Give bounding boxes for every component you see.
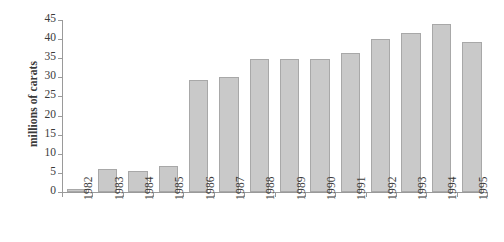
y-tick-label: 20 <box>45 108 57 120</box>
bar-chart: millions of carats 051015202530354045 19… <box>0 0 504 242</box>
x-tick-label: 1993 <box>416 176 428 200</box>
bar <box>280 59 299 192</box>
bar <box>250 59 269 192</box>
plot-area: 051015202530354045 <box>62 20 487 192</box>
y-tick-label: 25 <box>45 88 57 100</box>
y-tick-mark <box>58 116 63 117</box>
bar <box>219 77 238 192</box>
x-tick-label: 1994 <box>446 176 458 200</box>
y-tick-mark <box>58 77 63 78</box>
bar <box>401 33 420 192</box>
y-tick-mark <box>58 154 63 155</box>
x-tick-label: 1989 <box>295 176 307 200</box>
y-tick-mark <box>58 96 63 97</box>
y-tick-label: 30 <box>45 69 57 81</box>
x-tick-label: 1983 <box>113 176 125 200</box>
x-tick-label: 1992 <box>386 176 398 200</box>
x-tick-label: 1995 <box>477 176 489 200</box>
y-tick-label: 5 <box>50 165 56 177</box>
y-axis-line <box>62 20 63 193</box>
x-tick-label: 1985 <box>173 176 185 200</box>
y-tick-label: 10 <box>45 146 57 158</box>
bar <box>462 42 481 192</box>
x-tick-label: 1986 <box>204 176 216 200</box>
x-tick-label: 1984 <box>143 176 155 200</box>
x-tick-mark <box>62 192 63 197</box>
y-tick-mark <box>58 58 63 59</box>
y-tick-label: 35 <box>45 50 57 62</box>
x-tick-label: 1982 <box>82 176 94 200</box>
x-tick-label: 1990 <box>325 176 337 200</box>
y-tick-mark <box>58 173 63 174</box>
bar <box>432 24 451 192</box>
y-tick-label: 40 <box>45 31 57 43</box>
y-tick-label: 0 <box>50 184 56 196</box>
bar <box>310 59 329 192</box>
x-tick-label: 1991 <box>355 176 367 200</box>
bar <box>371 39 390 192</box>
y-tick-mark <box>58 39 63 40</box>
x-tick-label: 1987 <box>234 176 246 200</box>
y-tick-label: 15 <box>45 127 57 139</box>
bar <box>341 53 360 192</box>
x-tick-label: 1988 <box>264 176 276 200</box>
y-tick-mark <box>58 20 63 21</box>
y-axis-title: millions of carats <box>27 24 39 184</box>
y-tick-label: 45 <box>45 12 57 24</box>
y-tick-mark <box>58 135 63 136</box>
